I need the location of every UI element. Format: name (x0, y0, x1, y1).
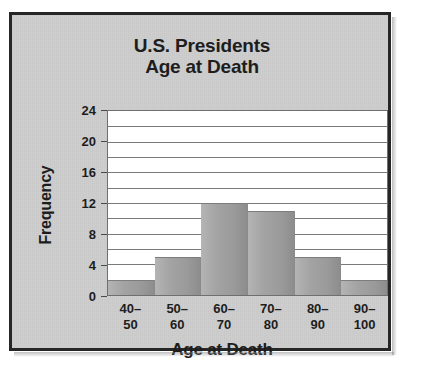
bar (155, 257, 202, 295)
y-axis-title-wrap: Frequency (33, 115, 59, 295)
y-axis-tick-label: 20 (62, 135, 96, 148)
x-axis-tick-label-line: 80 (247, 317, 294, 333)
y-axis-tick-mark (101, 296, 107, 297)
bar (201, 203, 248, 295)
x-axis-tick-label-line: 90– (341, 301, 388, 317)
x-axis-tick-label-line: 50– (154, 301, 201, 317)
plot-area (107, 110, 388, 296)
y-axis-tick-label: 8 (62, 228, 96, 241)
bar (341, 280, 387, 295)
histogram-figure: U.S. Presidents Age at Death Frequency 2… (0, 0, 425, 368)
y-axis-tick-label: 24 (62, 104, 96, 117)
x-axis-tick-label-line: 60 (154, 317, 201, 333)
y-axis-tick-label: 12 (62, 197, 96, 210)
chart-frame: U.S. Presidents Age at Death Frequency 2… (9, 12, 391, 351)
x-axis-tick-label-line: 70– (247, 301, 294, 317)
bar-series (108, 111, 387, 295)
y-axis-tick-label: 16 (62, 166, 96, 179)
x-axis-tick-label-line: 50 (107, 317, 154, 333)
x-axis-tick-label-line: 100 (341, 317, 388, 333)
y-axis-title: Frequency (37, 165, 55, 244)
x-axis-tick-label: 80– 90 (294, 301, 341, 333)
y-axis-tick-label: 0 (62, 290, 96, 303)
x-axis-tick-label-line: 70 (201, 317, 248, 333)
x-axis-title: Age at Death (72, 340, 372, 360)
x-axis-tick-label: 70– 80 (247, 301, 294, 333)
page-edge-shadow-right (392, 17, 397, 355)
x-axis-tick-label: 40– 50 (107, 301, 154, 333)
x-axis-tick-labels: 40– 50 50– 60 60– 70 70– 80 80– 90 90– 1… (107, 301, 388, 333)
x-axis-tick-label: 60– 70 (201, 301, 248, 333)
bar (248, 211, 295, 295)
x-axis-tick-label: 90– 100 (341, 301, 388, 333)
x-axis-tick-label-line: 80– (294, 301, 341, 317)
x-axis-tick-label-line: 40– (107, 301, 154, 317)
bar (295, 257, 342, 295)
chart-title-line-2: Age at Death (52, 56, 352, 77)
x-axis-tick-label-line: 60– (201, 301, 248, 317)
chart-title: U.S. Presidents Age at Death (52, 35, 352, 77)
x-axis-tick-label: 50– 60 (154, 301, 201, 333)
x-axis-tick-label-line: 90 (294, 317, 341, 333)
bar (108, 280, 155, 295)
chart-title-line-1: U.S. Presidents (52, 35, 352, 56)
y-axis-tick-label: 4 (62, 259, 96, 272)
page-edge-shadow-bottom (14, 352, 394, 357)
